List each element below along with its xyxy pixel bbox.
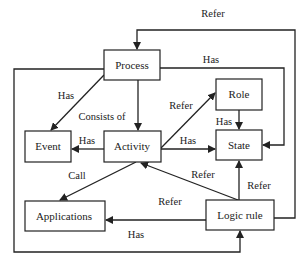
node-label-event: Event	[35, 140, 61, 152]
node-state: State	[216, 130, 262, 160]
node-label-applications: Applications	[36, 210, 92, 222]
edge-label-has-process-event: Has	[58, 90, 74, 101]
edge-logicrule-activity-refer	[141, 163, 238, 200]
edge-label-call: Call	[68, 170, 86, 181]
edge-label-has-process-state: Has	[203, 54, 219, 65]
edge-label-has-activity-event: Has	[79, 135, 95, 146]
node-event: Event	[25, 131, 71, 162]
node-label-process: Process	[115, 59, 149, 71]
workflow-diagram: Refer Has Has Consists of Has Refer Has …	[0, 0, 308, 266]
node-logic-rule: Logic rule	[206, 200, 274, 230]
node-label-role: Role	[229, 88, 250, 100]
node-role: Role	[216, 79, 262, 110]
edge-label-has-role-state: Has	[216, 116, 232, 127]
edge-label-consists-of: Consists of	[79, 111, 126, 122]
edge-label-refer-activity-role: Refer	[169, 100, 193, 111]
node-applications: Applications	[25, 201, 105, 231]
node-activity: Activity	[104, 131, 161, 162]
node-label-activity: Activity	[114, 140, 151, 152]
edge-label-has-activity-state: Has	[180, 135, 196, 146]
node-label-state: State	[228, 139, 250, 151]
edge-label-refer-logic-state: Refer	[247, 180, 271, 191]
edge-label-refer-logic-activity: Refer	[191, 169, 215, 180]
node-label-logic-rule: Logic rule	[217, 209, 263, 221]
node-process: Process	[104, 50, 160, 80]
edge-label-refer-top: Refer	[201, 8, 225, 19]
edge-label-refer-logic-applications: Refer	[158, 196, 182, 207]
edge-label-has-bottom: Has	[128, 229, 144, 240]
